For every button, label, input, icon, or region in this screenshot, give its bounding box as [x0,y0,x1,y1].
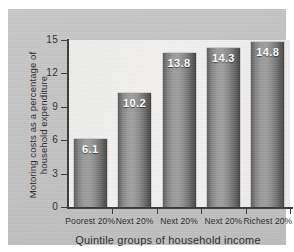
y-tick-mark [61,174,68,175]
x-axis-line [67,207,293,209]
x-tick-mark [157,208,158,214]
x-tick-mark [112,208,113,214]
bar: 14.8 [251,42,284,207]
x-tick-mark [201,208,202,214]
y-axis-title-line-1: Motoring costs as a percentage of [27,40,38,210]
y-tick-mark [61,73,68,74]
y-axis-title-line-2: household expenditure [38,40,49,210]
bar-value-label: 14.3 [207,52,240,64]
y-tick-mark [61,140,68,141]
y-axis-title: Motoring costs as a percentage of househ… [27,40,49,210]
bar: 6.1 [74,139,107,207]
bar: 14.3 [207,48,240,207]
bar-value-label: 13.8 [163,57,196,69]
chart-figure: 03691215 6.110.213.814.314.8 Poorest 20%… [0,0,294,252]
bar: 10.2 [118,93,151,207]
x-category-label: Richest 20% [236,216,294,226]
bar-value-label: 14.8 [251,46,284,58]
bar: 13.8 [163,53,196,207]
chart-panel: 03691215 6.110.213.814.314.8 Poorest 20%… [8,9,286,245]
x-axis-title: Quintile groups of household income [48,234,288,246]
y-tick-mark [61,40,68,41]
y-axis-line [67,39,69,209]
x-tick-mark [246,208,247,214]
bar-value-label: 10.2 [118,97,151,109]
bar-value-label: 6.1 [74,143,107,155]
y-tick-mark [61,107,68,108]
y-tick-mark [61,207,68,208]
x-tick-mark [290,208,291,214]
